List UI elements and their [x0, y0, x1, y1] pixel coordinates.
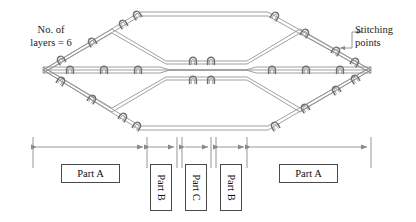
part-label-text: Part A: [295, 168, 322, 179]
part-label-text: Part B: [226, 174, 237, 201]
layers-count-label: No. of layers = 6: [8, 24, 94, 49]
part-label-box-b-left: Part B: [150, 164, 172, 211]
part-label-text: Part B: [156, 174, 167, 201]
part-label-box-c: Part C: [185, 164, 207, 211]
stitch-point: [132, 10, 142, 20]
stitch-point: [331, 85, 341, 95]
ply-core-b: [43, 70, 371, 73]
ply-core-c: [43, 67, 371, 70]
part-label-box-b-right: Part B: [220, 164, 242, 211]
stitching-points-label: Stitching points: [355, 24, 413, 49]
stitch-point: [56, 55, 66, 65]
ply-mid-bottom-a: [43, 70, 371, 112]
part-label-box-a-right: Part A: [279, 164, 338, 183]
leader-stem: [340, 32, 352, 48]
part-label-box-a-left: Part A: [61, 164, 120, 183]
figure-canvas: No. of layers = 6 Stitching points Part …: [0, 0, 416, 222]
part-label-text: Part A: [77, 168, 104, 179]
part-label-text: Part C: [191, 174, 202, 201]
